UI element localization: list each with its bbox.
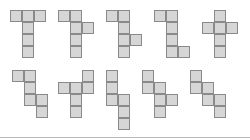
net-square (82, 22, 94, 34)
net-square (178, 46, 190, 58)
net-square (22, 22, 34, 34)
net-square (106, 94, 118, 106)
net-square (154, 82, 166, 94)
net-square (166, 94, 178, 106)
net-square (202, 82, 214, 94)
net-square (118, 34, 130, 46)
net-square (58, 82, 70, 94)
net-square (70, 82, 82, 94)
net-square (214, 34, 226, 46)
net-square (130, 34, 142, 46)
net-square (22, 10, 34, 22)
net-square (70, 46, 82, 58)
net-square (214, 22, 226, 34)
net-square (22, 46, 34, 58)
net-square (154, 10, 166, 22)
net-square (36, 106, 48, 118)
net-square (118, 106, 130, 118)
net-square (118, 46, 130, 58)
net-square (10, 10, 22, 22)
net-square (22, 34, 34, 46)
net-square (82, 82, 94, 94)
net-square (106, 82, 118, 94)
net-square (24, 82, 36, 94)
net-square (166, 10, 178, 22)
net-square (36, 94, 48, 106)
net-square (142, 82, 154, 94)
net-square (190, 70, 202, 82)
net-square (58, 10, 70, 22)
net-square (142, 70, 154, 82)
net-square (118, 10, 130, 22)
net-square (118, 118, 130, 130)
net-square (226, 22, 238, 34)
net-square (118, 94, 130, 106)
net-square (70, 10, 82, 22)
net-square (34, 10, 46, 22)
net-square (166, 46, 178, 58)
net-square (70, 22, 82, 34)
baseline-divider (0, 137, 250, 138)
net-square (118, 22, 130, 34)
net-square (12, 70, 24, 82)
net-square (202, 94, 214, 106)
net-square (70, 106, 82, 118)
net-square (166, 22, 178, 34)
net-square (202, 22, 214, 34)
net-square (70, 94, 82, 106)
net-square (106, 10, 118, 22)
net-square (214, 10, 226, 22)
net-square (214, 46, 226, 58)
net-square (106, 70, 118, 82)
net-square (166, 34, 178, 46)
net-square (70, 34, 82, 46)
net-square (24, 70, 36, 82)
net-square (24, 94, 36, 106)
net-square (190, 82, 202, 94)
net-square (214, 106, 226, 118)
net-square (154, 106, 166, 118)
net-square (154, 94, 166, 106)
net-square (214, 94, 226, 106)
net-square (82, 70, 94, 82)
